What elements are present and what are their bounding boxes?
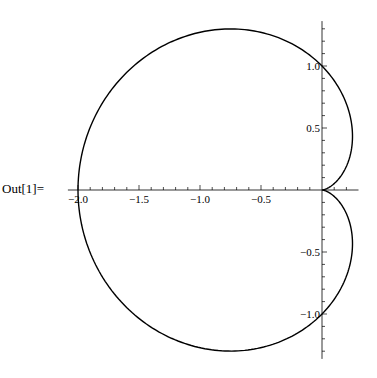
axes: −2.0−1.5−1.0−0.5−1.0−0.50.51.0 <box>68 21 359 359</box>
y-tick-label: 0.5 <box>306 122 320 134</box>
y-tick-label: −0.5 <box>300 246 320 258</box>
x-tick-label: −1.0 <box>190 193 210 205</box>
cardioid-plot: −2.0−1.5−1.0−0.5−1.0−0.50.51.0 <box>0 0 377 378</box>
x-tick-label: −0.5 <box>251 193 271 205</box>
x-tick-label: −1.5 <box>129 193 149 205</box>
